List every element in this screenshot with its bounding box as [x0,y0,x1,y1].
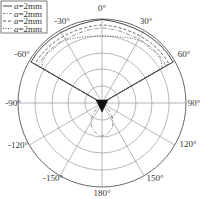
tick-m60: -60° [14,49,30,59]
tick-90: 90° [188,98,201,108]
tick-30: 30° [140,16,153,26]
tick-m30: -30° [54,16,70,26]
tick-180: 180° [93,188,111,198]
tick-0: 0° [98,3,107,13]
tick-m120: -120° [8,140,28,150]
tick-150: 150° [146,173,164,183]
svg-text:a=2mm: a=2mm [14,24,42,34]
tick-m150: -150° [43,173,63,183]
tick-60: 60° [178,49,191,59]
legend: a=2mm a=2mm a=2mm a=2mm [1,1,47,34]
polar-chart: 0° 30° 60° 90° 120° 150° 180° -150° -120… [0,0,205,199]
tick-120: 120° [179,139,197,149]
tick-m90: -90° [5,98,21,108]
